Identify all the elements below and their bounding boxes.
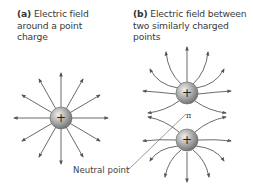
panel-b-bottom-charge: + xyxy=(176,129,198,151)
neutral-point-label: Neutral point xyxy=(73,165,130,175)
charge-sign-a: + xyxy=(56,111,66,125)
charge-sign-b-bottom: + xyxy=(182,133,192,147)
panel-a-charge: + xyxy=(50,107,72,129)
field-diagram: + + + π Neutral point xyxy=(0,0,253,185)
neutral-point-marker: π xyxy=(186,111,191,120)
panel-b-top-charge: + xyxy=(176,82,198,104)
charge-sign-b-top: + xyxy=(182,86,192,100)
